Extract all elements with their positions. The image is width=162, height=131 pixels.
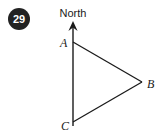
geometry-diagram: 29 North A B C: [0, 0, 162, 131]
vertex-label-a: A: [59, 36, 68, 50]
badge-number-label: 29: [13, 13, 25, 25]
vertex-label-c: C: [61, 119, 70, 131]
segment-cb: [73, 82, 142, 122]
north-label: North: [60, 7, 87, 19]
figure-screenshot: 29 North A B C: [0, 0, 162, 131]
question-number-badge: 29: [8, 8, 30, 30]
vertex-label-b: B: [147, 77, 155, 91]
segment-ab: [73, 42, 142, 82]
